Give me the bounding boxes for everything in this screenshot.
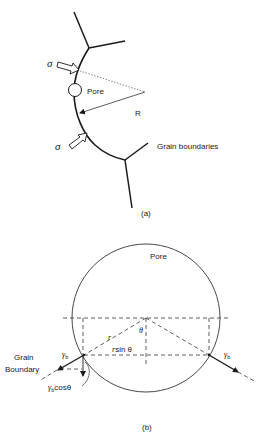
pore-label-b: Pore bbox=[150, 252, 167, 261]
radius-right-dashed-line bbox=[146, 318, 209, 355]
panel-b-caption: (b) bbox=[142, 423, 152, 432]
grain-boundary-bottom-right-branch bbox=[125, 143, 148, 160]
grain-boundary-top-branch bbox=[74, 12, 89, 48]
panel-b: Pore θ r rsin θ Grain Boundary γb γb γbc… bbox=[5, 244, 256, 432]
right-contact-point bbox=[208, 354, 210, 356]
gamma-b-left-label: γb bbox=[62, 350, 68, 360]
r-label: r bbox=[108, 333, 112, 342]
grain-boundary-right-dashed-extension bbox=[238, 372, 256, 382]
grain-boundary-top-right-branch bbox=[89, 41, 125, 48]
theta-label: θ bbox=[139, 326, 143, 335]
r-sin-theta-label: rsin θ bbox=[112, 345, 133, 354]
panel-a: σ σ Pore R Grain boundaries (a) bbox=[47, 12, 218, 218]
stress-label-bottom: σ bbox=[55, 140, 61, 152]
pore-label-a: Pore bbox=[87, 87, 104, 96]
pore-circle-small bbox=[69, 84, 82, 97]
radius-label: R bbox=[135, 109, 141, 118]
pore-grain-boundary-diagram: σ σ Pore R Grain boundaries (a) bbox=[0, 0, 266, 436]
stress-label-top: σ bbox=[47, 57, 53, 69]
stress-arrow-bottom-icon bbox=[69, 133, 87, 149]
grain-boundary-label-line1: Grain bbox=[14, 353, 34, 362]
curved-grain-boundary bbox=[74, 48, 125, 160]
stress-arrow-top-icon bbox=[57, 62, 79, 74]
gamma-b-cos-theta-label: γbcosθ bbox=[48, 383, 72, 393]
grain-boundary-bottom-branch bbox=[125, 160, 132, 208]
grain-boundary-left-dashed-extension bbox=[39, 370, 57, 381]
left-contact-point bbox=[83, 354, 85, 356]
grain-boundary-label-line2: Boundary bbox=[5, 365, 39, 374]
grain-boundaries-label: Grain boundaries bbox=[157, 142, 218, 151]
panel-a-caption: (a) bbox=[141, 209, 151, 218]
gamma-b-right-label: γb bbox=[224, 350, 230, 360]
